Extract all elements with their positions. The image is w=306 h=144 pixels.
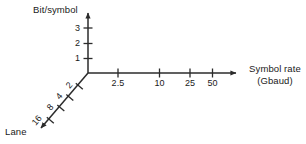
x-axis-group (88, 69, 236, 78)
x-axis-title: Symbol rate (246, 63, 304, 74)
z-axis-title: Lane (5, 126, 27, 137)
axis-diagram-figure: Bit/symbol 3 2 1 2.5 10 25 50 Symbol rat… (0, 0, 306, 144)
x-axis-tick-label-2point5: 2.5 (106, 78, 130, 89)
y-axis-tick-label-3: 3 (68, 23, 80, 34)
y-axis-tick-label-1: 1 (68, 53, 80, 64)
x-axis-tick-label-10: 10 (148, 78, 172, 89)
y-axis-title: Bit/symbol (33, 4, 78, 15)
x-axis-unit: (Gbaud) (246, 75, 304, 86)
x-axis-tick-label-50: 50 (201, 78, 225, 89)
x-axis-tick-label-25: 25 (178, 78, 202, 89)
y-axis-group (84, 13, 93, 73)
y-axis-tick-label-2: 2 (68, 38, 80, 49)
